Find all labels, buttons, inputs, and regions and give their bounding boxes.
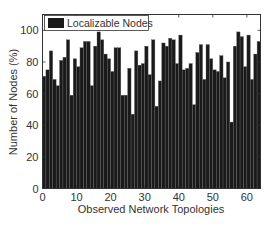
bar <box>63 57 66 188</box>
bar <box>152 40 155 189</box>
bar <box>124 95 127 188</box>
bar <box>43 76 46 188</box>
x-tick-label: 50 <box>207 191 219 203</box>
bar <box>203 79 206 188</box>
bar <box>179 35 182 188</box>
y-tick-label: 0 <box>32 183 38 195</box>
bar <box>199 45 202 189</box>
bar <box>237 32 240 189</box>
bar <box>104 54 107 188</box>
bar <box>60 60 63 188</box>
bar <box>114 48 117 189</box>
bar <box>209 59 212 189</box>
bar <box>169 38 172 188</box>
bar <box>240 37 243 189</box>
bar <box>107 59 110 189</box>
bar <box>250 79 253 188</box>
bar <box>138 65 141 188</box>
x-axis-label: Observed Network Topologies <box>78 203 225 215</box>
bar <box>134 51 137 189</box>
x-tick-label: 60 <box>241 191 253 203</box>
bar <box>80 48 83 189</box>
bar <box>226 62 229 189</box>
bar <box>145 46 148 188</box>
bar <box>254 54 257 188</box>
bar <box>155 106 158 188</box>
bar <box>206 45 209 189</box>
bar <box>121 95 124 188</box>
bar <box>158 81 161 189</box>
bar <box>83 41 86 188</box>
bar <box>233 46 236 188</box>
bar <box>165 46 168 188</box>
bar <box>148 75 151 189</box>
bar <box>257 41 260 188</box>
y-axis-label: Number of Nodes (%) <box>7 49 19 155</box>
bar <box>213 70 216 189</box>
bar <box>182 70 185 189</box>
bar <box>216 71 219 188</box>
bar <box>186 68 189 188</box>
x-tick-label: 20 <box>105 191 117 203</box>
x-tick-label: 30 <box>139 191 151 203</box>
x-tick-label: 40 <box>173 191 185 203</box>
y-tick-label: 80 <box>26 56 38 68</box>
x-tick-label: 0 <box>39 191 45 203</box>
x-tick-label: 10 <box>70 191 82 203</box>
legend-label: Localizable Nodes <box>67 17 153 29</box>
y-tick-label: 40 <box>26 119 38 131</box>
bar <box>56 86 59 189</box>
bar <box>223 78 226 189</box>
bar <box>111 71 114 188</box>
bar <box>220 56 223 189</box>
bar <box>94 46 97 188</box>
y-tick-label: 60 <box>26 88 38 100</box>
bar <box>172 40 175 189</box>
bar <box>192 105 195 189</box>
bar <box>97 32 100 189</box>
bar <box>87 41 90 188</box>
bar <box>66 40 69 189</box>
bar <box>46 70 49 189</box>
bars-group <box>43 32 261 189</box>
bar <box>49 51 52 189</box>
legend: Localizable Nodes <box>45 16 153 31</box>
bar <box>117 48 120 189</box>
bar <box>131 114 134 188</box>
legend-swatch <box>48 18 64 28</box>
bar-chart: 020406080100 0102030405060 Observed Netw… <box>0 0 275 228</box>
bar <box>196 52 199 188</box>
bar <box>230 122 233 188</box>
bar <box>53 79 56 188</box>
bar <box>162 43 165 189</box>
bar <box>128 68 131 188</box>
bar <box>70 95 73 188</box>
bar <box>100 40 103 189</box>
bar <box>175 64 178 189</box>
bar <box>73 59 76 189</box>
bar <box>90 86 93 189</box>
bar <box>77 67 80 189</box>
bar <box>189 64 192 189</box>
bar <box>243 67 246 189</box>
y-tick-label: 20 <box>26 151 38 163</box>
bar <box>141 64 144 189</box>
y-tick-label: 100 <box>20 24 38 36</box>
bar <box>247 35 250 188</box>
